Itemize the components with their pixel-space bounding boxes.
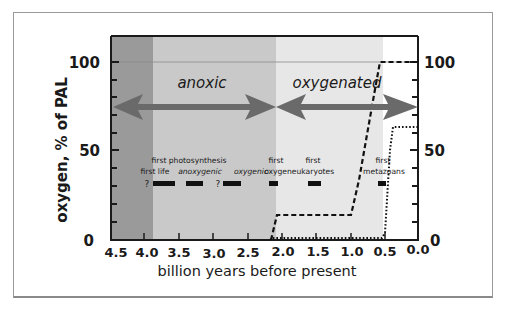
band-anoxic (153, 36, 276, 240)
event-label-anoxygenic: anoxygenic (178, 167, 223, 176)
y-right-label-50: 50 (424, 142, 445, 160)
event-label-first-oxygen-1: first (269, 156, 284, 165)
event-label-first-oxygen-2: oxygen (264, 167, 292, 176)
event-label-first-metazoans-2: metazoans (363, 167, 405, 176)
x-axis-title: billion years before present (158, 263, 357, 279)
band-early-earth (111, 36, 153, 240)
uncertain-marker-first-life: ? (145, 179, 150, 189)
x-label-2.5: 2.5 (236, 245, 259, 260)
uncertain-marker-oxygenic: ? (216, 179, 221, 189)
event-label-first-eukaryotes-2: eukaryotes (292, 167, 334, 176)
band-modern (383, 36, 418, 240)
y-axis-title: oxygen, % of PAL (53, 77, 71, 223)
y-left-label-100: 100 (69, 54, 100, 72)
y-right-label-0: 0 (430, 232, 440, 250)
x-tick-labels: 4.5 4.0 3.5 3.0 2.5 2.0 1.5 1.0 0.5 0.0 (104, 242, 429, 261)
region-label-anoxic: anoxic (177, 74, 227, 92)
region-label-oxygenated: oxygenated (292, 74, 381, 92)
x-label-2.0: 2.0 (271, 244, 294, 259)
event-label-first-life: first life (141, 167, 170, 176)
event-label-first-eukaryotes-1: first (306, 156, 321, 165)
x-label-3.0: 3.0 (202, 246, 225, 261)
x-label-1.0: 1.0 (340, 244, 363, 259)
x-label-1.5: 1.5 (306, 244, 329, 259)
x-label-3.5: 3.5 (167, 245, 190, 260)
y-left-label-50: 50 (79, 142, 100, 160)
oxygen-history-chart: anoxic oxygenated first photosynthesis f… (0, 0, 506, 312)
x-label-0.0: 0.0 (406, 242, 429, 257)
event-label-first-metazoans-1: first (376, 156, 391, 165)
y-right-label-100: 100 (424, 54, 455, 72)
x-label-4.0: 4.0 (135, 245, 158, 260)
x-label-0.5: 0.5 (373, 244, 396, 259)
y-left-label-0: 0 (84, 232, 94, 250)
event-label-first-photosynthesis: first photosynthesis (152, 156, 227, 165)
x-label-4.5: 4.5 (104, 245, 127, 260)
